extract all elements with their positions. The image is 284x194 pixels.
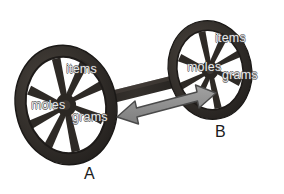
wheel-b bbox=[159, 13, 261, 127]
wheel-b-name: B bbox=[215, 123, 226, 141]
wheel-diagram-canvas bbox=[0, 0, 284, 194]
wheel-diagram-figure: items moles grams items moles grams A B bbox=[0, 0, 284, 194]
wheel-a-name: A bbox=[84, 165, 95, 183]
wheel-a bbox=[4, 36, 128, 175]
